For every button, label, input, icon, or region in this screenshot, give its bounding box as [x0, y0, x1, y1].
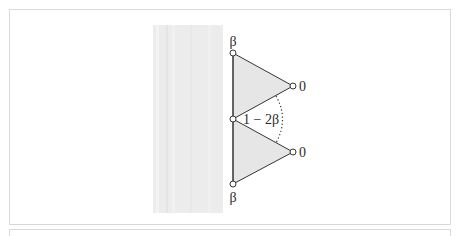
- node-upper-right: [290, 83, 296, 89]
- label-upper-right-node: 0: [299, 79, 306, 94]
- label-lower-right-node: 0: [299, 145, 306, 160]
- lower-triangle: [233, 119, 293, 184]
- node-middle: [230, 116, 236, 122]
- node-top: [230, 50, 236, 56]
- label-angle: 1 − 2β: [243, 112, 279, 127]
- triangle-diagram: β β 0 0 1 − 2β: [0, 0, 464, 236]
- label-bottom-node: β: [229, 190, 236, 205]
- label-top-node: β: [229, 34, 236, 49]
- background-strip: [153, 25, 223, 213]
- node-lower-right: [290, 149, 296, 155]
- upper-triangle: [233, 53, 293, 119]
- node-bottom: [230, 181, 236, 187]
